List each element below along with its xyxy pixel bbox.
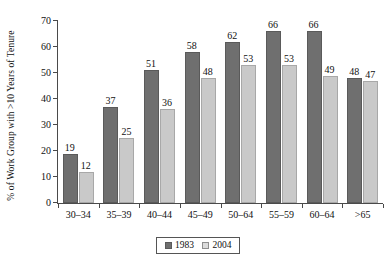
bar-value-label: 51 [136,58,166,69]
bar-2004-45–49 [201,78,216,203]
bar-value-label: 62 [217,30,247,41]
y-axis-tick: 0 [0,197,57,208]
legend-label-1983: 1983 [175,240,194,250]
bar-value-label: 58 [177,40,207,51]
x-axis-tick-mark [58,204,59,208]
bar-2004-60–64 [323,76,338,203]
bar-1983-40–44 [144,70,159,203]
bar-2004-40–44 [160,109,175,203]
y-axis-tick: 70 [0,15,57,26]
y-axis-tick: 40 [0,93,57,104]
y-axis-tick: 50 [0,67,57,78]
legend-label-2004: 2004 [212,240,231,250]
bar-value-label: 19 [55,142,85,153]
x-axis-tick-mark [383,204,384,208]
bar-1983-50–64 [225,42,240,203]
bar-value-label: 48 [193,66,223,77]
bar-2004-35–39 [119,138,134,203]
bar-value-label: 66 [258,19,288,30]
bar-value-label: 25 [111,126,141,137]
y-axis-tick: 20 [0,145,57,156]
bar-value-label: 36 [152,97,182,108]
y-axis-tick: 10 [0,171,57,182]
x-axis-tick-mark [261,204,262,208]
legend-swatch-1983-icon [165,242,172,249]
chart-legend: 1983 2004 [156,237,240,254]
y-axis-tick: 30 [0,119,57,130]
legend-item-1983: 1983 [165,239,194,251]
x-axis-tick-mark [99,204,100,208]
bar-value-label: 53 [274,53,304,64]
bar-1983-60–64 [307,31,322,203]
x-axis-tick-mark [302,204,303,208]
legend-swatch-2004-icon [202,242,209,249]
y-axis-tick: 60 [0,41,57,52]
bar-1983->65 [347,78,362,203]
bar-chart-figure: % of Work Group with >10 Years of Tenure… [0,0,392,265]
bar-1983-35–39 [103,107,118,203]
x-axis-tick-mark [342,204,343,208]
x-axis-tick-mark [180,204,181,208]
x-axis-tick-mark [139,204,140,208]
bar-2004-30–34 [79,172,94,203]
bar-2004-50–64 [241,65,256,203]
bar-value-label: 53 [233,53,263,64]
bar-value-label: 12 [71,160,101,171]
bar-value-label: 47 [355,69,385,80]
legend-item-2004: 2004 [202,239,231,251]
bar-value-label: 66 [299,19,329,30]
x-axis-tick-mark [221,204,222,208]
bar-value-label: 37 [95,95,125,106]
plot-area: 19123725513658486253665366494847 [58,21,383,203]
bar-2004->65 [363,81,378,203]
bar-2004-55–59 [282,65,297,203]
x-axis-tick-label: >65 [333,209,392,220]
